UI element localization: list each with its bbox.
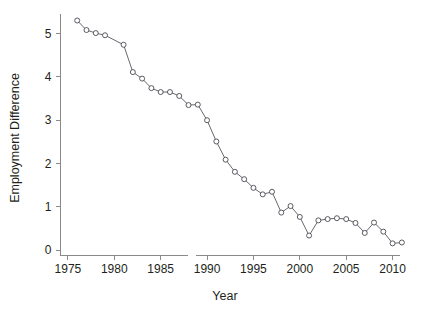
data-point-marker [316, 218, 321, 223]
data-point-marker [325, 217, 330, 222]
y-tick-label: 5 [45, 27, 52, 41]
data-point-marker [167, 90, 172, 95]
data-point-marker [149, 86, 154, 91]
x-tick-label: 1985 [147, 262, 174, 276]
data-point-marker [260, 192, 265, 197]
data-point-marker [103, 33, 108, 38]
data-point-marker [334, 216, 339, 221]
data-point-marker [353, 220, 358, 225]
data-point-marker [223, 157, 228, 162]
y-axis-title: Employment Difference [8, 73, 22, 203]
data-point-marker [242, 177, 247, 182]
employment-difference-chart: 012345 19751980198519901995200020052010 … [0, 0, 436, 322]
data-point-marker [307, 233, 312, 238]
data-point-marker [297, 214, 302, 219]
data-point-marker [195, 102, 200, 107]
y-tick-label: 3 [45, 113, 52, 127]
data-point-marker [279, 210, 284, 215]
data-point-marker [390, 241, 395, 246]
data-point-marker [344, 217, 349, 222]
data-point-marker [130, 70, 135, 75]
data-point-marker [75, 18, 80, 23]
data-point-marker [214, 139, 219, 144]
data-point-marker [288, 204, 293, 209]
data-point-marker [84, 28, 89, 33]
data-point-marker [186, 103, 191, 108]
data-point-marker [140, 76, 145, 81]
data-point-marker [372, 220, 377, 225]
data-point-marker [205, 118, 210, 123]
x-tick-label: 1995 [240, 262, 267, 276]
data-point-marker [381, 229, 386, 234]
y-tick-label: 2 [45, 157, 52, 171]
x-tick-label: 1975 [55, 262, 82, 276]
data-point-marker [362, 230, 367, 235]
y-tick-label: 0 [45, 243, 52, 257]
data-point-marker [121, 42, 126, 47]
y-tick-label: 4 [45, 70, 52, 84]
x-tick-label: 1980 [101, 262, 128, 276]
x-tick-label: 2010 [379, 262, 406, 276]
data-point-marker [93, 31, 98, 36]
data-point-marker [232, 169, 237, 174]
data-point-marker [399, 240, 404, 245]
data-point-marker [177, 93, 182, 98]
data-point-marker [251, 185, 256, 190]
x-tick-label: 1990 [194, 262, 221, 276]
x-axis-title: Year [212, 289, 237, 303]
x-tick-label: 2000 [286, 262, 313, 276]
data-point-marker [269, 189, 274, 194]
y-tick-label: 1 [45, 200, 52, 214]
data-point-marker [158, 90, 163, 95]
x-tick-label: 2005 [333, 262, 360, 276]
